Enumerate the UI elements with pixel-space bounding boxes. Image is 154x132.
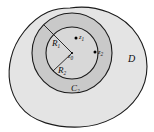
figure-container: R1 R2 z0 z1 z2 C2 D xyxy=(0,0,154,132)
point-z1 xyxy=(75,37,78,40)
diagram-svg: R1 R2 z0 z1 z2 C2 D xyxy=(0,0,154,132)
point-z2 xyxy=(94,51,97,54)
label-domain-d: D xyxy=(127,53,136,64)
